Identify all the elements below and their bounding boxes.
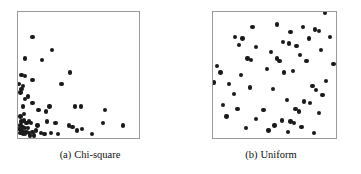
scatter-point <box>40 58 44 62</box>
scatter-point <box>18 90 22 94</box>
scatter-point <box>254 117 258 121</box>
scatter-point <box>103 108 107 112</box>
scatter-point <box>265 67 269 71</box>
scatter-point <box>269 50 273 54</box>
scatter-point <box>233 35 237 39</box>
scatter-point <box>292 121 296 125</box>
scatter-point <box>291 69 295 73</box>
scatter-point <box>272 123 276 127</box>
caption-chi-square: (a)Chi-square <box>0 148 180 161</box>
scatter-point <box>297 109 301 113</box>
scatter-point <box>30 78 34 82</box>
scatter-point <box>213 80 216 84</box>
scatter-point <box>101 121 105 125</box>
scatter-point <box>53 121 57 125</box>
scatter-point <box>323 12 327 15</box>
scatter-point <box>36 108 40 112</box>
scatter-point <box>248 85 252 89</box>
scatter-point <box>23 56 27 60</box>
scatter-point <box>275 22 279 26</box>
scatter-point <box>244 126 248 130</box>
scatter-point <box>21 104 25 108</box>
panel-uniform: (b)Uniform <box>181 0 361 174</box>
scatter-point <box>302 99 306 103</box>
scatter-point <box>280 118 284 122</box>
scatter-point <box>286 130 290 134</box>
scatter-point <box>304 59 308 63</box>
scatter-point <box>232 92 236 96</box>
scatter-area-chi-square <box>18 12 139 138</box>
scatter-point <box>68 70 72 74</box>
scatter-point <box>45 119 49 123</box>
scatter-point <box>317 111 321 115</box>
scatter-point <box>121 123 125 127</box>
caption-tag-b: (b) <box>245 149 257 160</box>
scatter-point <box>56 132 60 136</box>
scatter-point <box>90 132 94 136</box>
scatter-point <box>319 48 323 52</box>
scatter-point <box>331 62 335 66</box>
scatter-point <box>271 87 275 91</box>
scatter-point <box>320 93 324 97</box>
scatter-point <box>282 70 286 74</box>
scatter-point <box>22 112 26 116</box>
scatter-point <box>266 128 270 132</box>
scatter-point <box>308 101 312 105</box>
scatter-point <box>301 25 305 29</box>
scatter-point <box>240 36 244 40</box>
panel-chi-square: (a)Chi-square <box>0 0 180 174</box>
scatter-point <box>254 45 258 49</box>
scatter-point <box>249 58 253 62</box>
scatter-point <box>79 104 83 108</box>
scatter-point <box>328 35 332 39</box>
scatter-point <box>235 107 239 111</box>
scatter-point <box>29 121 33 125</box>
scatter-point <box>47 104 51 108</box>
scatter-point <box>317 29 321 33</box>
caption-label-b: Uniform <box>261 149 297 160</box>
scatter-point <box>50 48 54 52</box>
scatter-point <box>59 82 63 86</box>
scatter-point <box>23 97 27 101</box>
scatter-point <box>44 109 48 113</box>
scatter-point <box>288 30 292 34</box>
scatter-point <box>30 35 34 39</box>
scatter-point <box>30 101 34 105</box>
scatter-point <box>314 88 318 92</box>
scatter-point <box>73 104 77 108</box>
scatter-point <box>250 25 254 29</box>
scatter-point <box>281 40 285 44</box>
scatter-point <box>215 64 219 68</box>
scatter-point <box>221 103 225 107</box>
scatter-point <box>218 70 222 74</box>
scatter-point <box>299 125 303 129</box>
scatter-point <box>277 59 281 63</box>
scatter-point <box>80 127 84 131</box>
caption-label-a: Chi-square <box>74 149 120 160</box>
plot-frame-uniform <box>212 11 337 139</box>
scatter-point <box>324 79 328 83</box>
scatter-point <box>227 82 231 86</box>
scatter-point <box>298 53 302 57</box>
figure-container: (a)Chi-square (b)Uniform <box>0 0 361 174</box>
scatter-point <box>307 36 311 40</box>
scatter-point <box>75 128 79 132</box>
scatter-point <box>23 74 27 78</box>
scatter-point <box>287 41 291 45</box>
caption-uniform: (b)Uniform <box>181 148 361 161</box>
caption-tag-a: (a) <box>60 149 72 160</box>
scatter-point <box>261 108 265 112</box>
scatter-point <box>224 114 228 118</box>
scatter-point <box>34 128 38 132</box>
scatter-point <box>294 44 298 48</box>
scatter-point <box>285 98 289 102</box>
scatter-point <box>32 133 36 137</box>
scatter-point <box>49 131 53 135</box>
scatter-point <box>312 131 316 135</box>
scatter-point <box>237 43 241 47</box>
scatter-point <box>239 73 243 77</box>
scatter-point <box>35 123 39 127</box>
scatter-area-uniform <box>213 12 336 138</box>
scatter-point <box>42 132 46 136</box>
scatter-point <box>70 125 74 129</box>
